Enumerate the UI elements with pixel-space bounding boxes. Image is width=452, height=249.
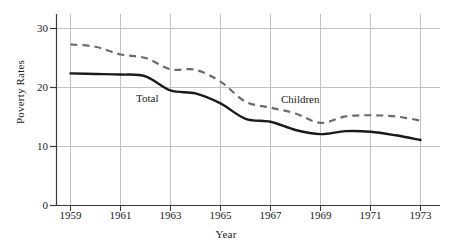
x-axis-title: Year: [0, 228, 452, 240]
x-tick-label-1967: 1967: [249, 210, 293, 221]
x-tick-label-1963: 1963: [149, 210, 193, 221]
y-tick-label-20: 20: [22, 82, 48, 93]
series-label-total: Total: [136, 93, 158, 104]
y-tick-marks: [50, 29, 57, 206]
x-tick-label-1965: 1965: [199, 210, 243, 221]
poverty-rates-line-chart: Poverty Rates: [0, 0, 452, 249]
horizontal-gridlines: [56, 29, 440, 147]
y-tick-label-30: 30: [22, 23, 48, 34]
x-tick-label-1959: 1959: [49, 210, 93, 221]
vertical-gridlines: [71, 14, 421, 205]
x-tick-label-1961: 1961: [99, 210, 143, 221]
series-label-children: Children: [281, 94, 320, 105]
y-tick-label-10: 10: [22, 141, 48, 152]
y-tick-label-0: 0: [22, 200, 48, 211]
series-line-children: [71, 44, 421, 122]
x-tick-label-1969: 1969: [299, 210, 343, 221]
x-tick-label-1971: 1971: [349, 210, 393, 221]
series-line-total: [71, 73, 421, 140]
x-tick-label-1973: 1973: [399, 210, 443, 221]
